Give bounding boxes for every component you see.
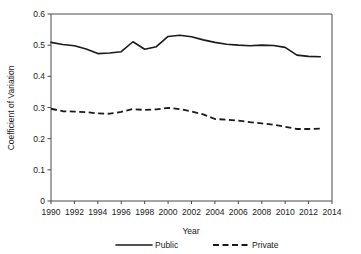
y-tick-label: 0.4 <box>33 71 45 81</box>
y-tick-label: 0.2 <box>33 134 45 144</box>
x-tick-label: 2006 <box>229 207 248 217</box>
x-tick-label: 2014 <box>323 207 342 217</box>
x-tick-label: 2004 <box>205 207 224 217</box>
legend: Public Private <box>116 240 279 250</box>
y-tick-label: 0.3 <box>33 103 45 113</box>
x-tick-label: 2008 <box>252 207 271 217</box>
legend-label-private: Private <box>252 240 279 250</box>
x-tick-label: 2000 <box>159 207 178 217</box>
series-line-private <box>51 108 320 129</box>
chart-figure: 00.10.20.30.40.50.6 19901992199419961998… <box>0 0 361 254</box>
y-axis-title: Coefficient of Variation <box>6 65 16 150</box>
y-tick-label: 0 <box>40 196 45 206</box>
y-axis-tick-labels: 00.10.20.30.40.50.6 <box>33 9 45 206</box>
x-tick-label: 1994 <box>88 207 107 217</box>
x-tick-label: 2002 <box>182 207 201 217</box>
x-tick-label: 1990 <box>42 207 61 217</box>
x-tick-label: 2012 <box>299 207 318 217</box>
x-tick-label: 1992 <box>65 207 84 217</box>
legend-item-private: Private <box>213 240 279 250</box>
legend-label-public: Public <box>155 240 179 250</box>
x-axis-tick-labels: 1990199219941996199820002002200420062008… <box>42 207 342 217</box>
y-tick-label: 0.6 <box>33 9 45 19</box>
line-chart: 00.10.20.30.40.50.6 19901992199419961998… <box>0 0 361 254</box>
y-tick-label: 0.1 <box>33 165 45 175</box>
x-tick-label: 2010 <box>276 207 295 217</box>
plot-frame <box>51 14 332 201</box>
x-tick-label: 1998 <box>135 207 154 217</box>
y-tick-label: 0.5 <box>33 40 45 50</box>
legend-item-public: Public <box>116 240 179 250</box>
x-axis-title: Year <box>182 226 199 236</box>
series-line-public <box>51 35 320 57</box>
x-tick-label: 1996 <box>112 207 131 217</box>
